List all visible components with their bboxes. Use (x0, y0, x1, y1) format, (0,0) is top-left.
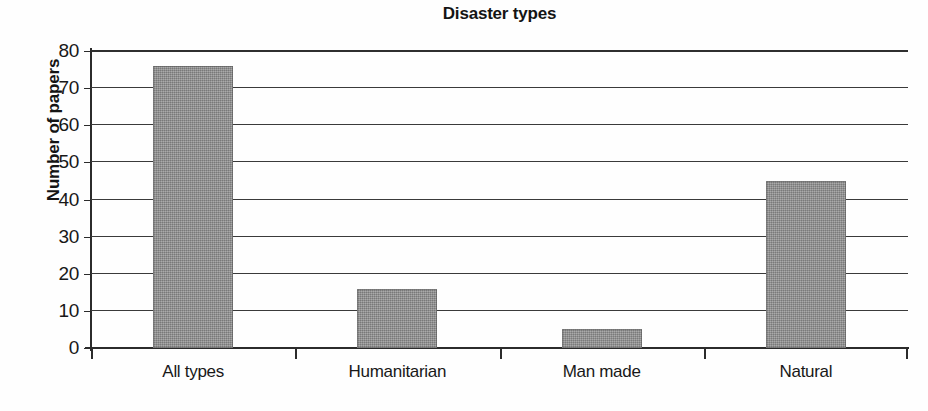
y-axis-tick-label: 60 (58, 114, 79, 136)
x-axis-tick-labels: All typesHumanitarianMan madeNatural (91, 362, 908, 392)
y-axis-tick-label: 10 (58, 300, 79, 322)
x-axis-tick (906, 348, 908, 359)
bar (766, 181, 846, 348)
y-axis-tick (84, 274, 92, 275)
y-axis-tick-label: 0 (69, 337, 79, 359)
bar (357, 289, 437, 348)
y-axis-tick-label: 20 (58, 263, 79, 285)
y-axis-tick-label: 70 (58, 77, 79, 99)
x-axis-tick (91, 348, 93, 359)
y-axis-tick (84, 200, 92, 201)
bar-chart-figure: Disaster types Number of papers 80706050… (0, 0, 928, 411)
x-axis-tick (500, 348, 502, 359)
gridline (91, 50, 908, 52)
page-title: Disaster types (91, 4, 908, 24)
x-axis-tick-label: Natural (704, 362, 908, 382)
y-axis-tick (84, 311, 92, 312)
y-axis-tick (84, 237, 92, 238)
y-axis-tick-label: 80 (58, 40, 79, 62)
x-axis-tick-label: Humanitarian (295, 362, 499, 382)
x-axis-tick (295, 348, 297, 359)
y-axis-tick-label: 30 (58, 226, 79, 248)
x-axis-tick (704, 348, 706, 359)
y-axis-tick-label: 50 (58, 151, 79, 173)
y-axis-tick-label: 40 (58, 189, 79, 211)
x-axis-tick-label: All types (91, 362, 295, 382)
bar (153, 66, 233, 348)
y-axis-tick (84, 51, 92, 52)
bar (562, 329, 642, 348)
plot-area: 80706050403020100 (91, 51, 908, 348)
y-axis-tick (84, 125, 92, 126)
y-axis-tick (84, 162, 92, 163)
x-axis-tick-label: Man made (500, 362, 704, 382)
y-axis-tick (84, 88, 92, 89)
